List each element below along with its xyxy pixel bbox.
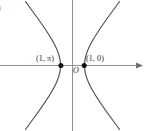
left-vertex-point xyxy=(58,63,63,68)
origin-label: O xyxy=(73,67,79,75)
right-vertex-label: (1, 0) xyxy=(86,55,104,63)
hyperbola-left-branch-lower xyxy=(26,66,61,130)
hyperbola-figure: ) (1, π) (1, 0) O xyxy=(0,0,145,131)
horizontal-axis-arrowhead xyxy=(136,63,143,69)
left-vertex-label: (1, π) xyxy=(36,55,54,63)
hyperbola-right-branch-lower xyxy=(84,66,119,130)
panel-label: ) xyxy=(0,2,1,13)
right-vertex-point xyxy=(82,63,87,68)
